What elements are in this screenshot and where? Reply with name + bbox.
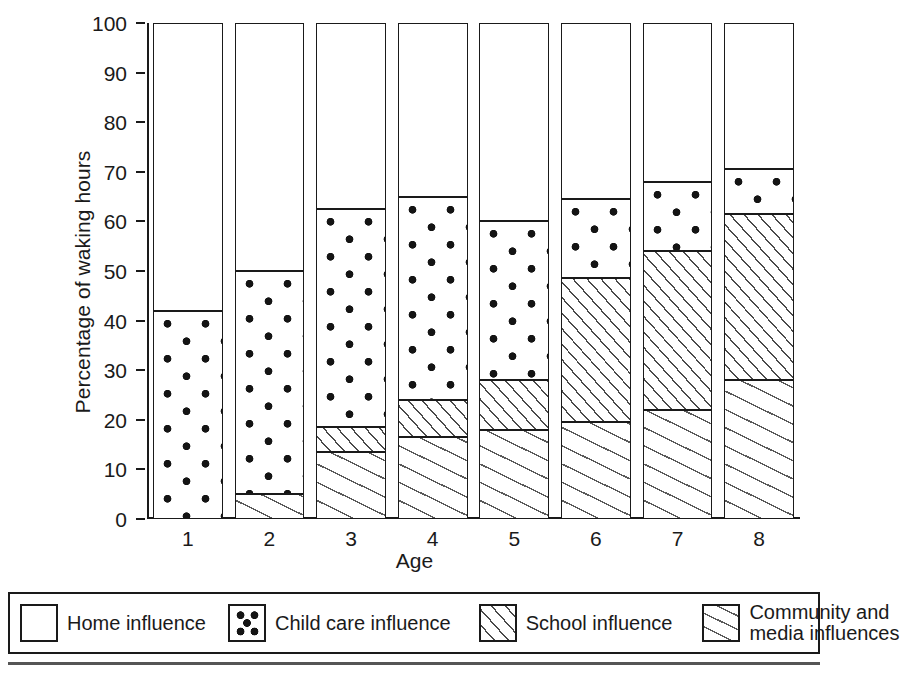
x-tick-label: 8 bbox=[753, 527, 765, 551]
bar-segment-community bbox=[316, 452, 386, 519]
y-tick-mark bbox=[136, 270, 145, 272]
y-tick-label: 20 bbox=[75, 409, 127, 430]
bar-stack bbox=[153, 23, 223, 519]
y-tick-mark bbox=[136, 468, 145, 470]
y-tick-label: 60 bbox=[75, 211, 127, 232]
legend-swatch-home-icon bbox=[20, 604, 58, 642]
bar-stack bbox=[724, 23, 794, 519]
legend-entry-childcare[interactable]: Child care influence bbox=[228, 604, 451, 642]
bar-segment-school bbox=[643, 251, 713, 410]
bar-segment-community bbox=[398, 437, 468, 519]
bar-segment-home bbox=[561, 23, 631, 199]
y-tick-label: 50 bbox=[75, 261, 127, 282]
y-tick-label: 10 bbox=[75, 459, 127, 480]
y-tick-label: 70 bbox=[75, 161, 127, 182]
bar-stack bbox=[316, 23, 386, 519]
bar-segment-childcare bbox=[316, 209, 386, 427]
y-tick-label: 30 bbox=[75, 360, 127, 381]
bar-segment-childcare bbox=[643, 182, 713, 251]
legend-entry-home[interactable]: Home influence bbox=[20, 604, 206, 642]
legend-swatch-community-icon bbox=[702, 604, 740, 642]
x-tick-label: 2 bbox=[264, 527, 276, 551]
bar-segment-childcare bbox=[398, 197, 468, 400]
bar-stack bbox=[398, 23, 468, 519]
y-tick-label: 80 bbox=[75, 112, 127, 133]
y-tick-label: 100 bbox=[75, 13, 127, 34]
x-tick-label: 5 bbox=[508, 527, 520, 551]
x-tick-label: 7 bbox=[672, 527, 684, 551]
bar-segment-community bbox=[479, 430, 549, 519]
y-tick-mark bbox=[136, 121, 145, 123]
bar-segment-home bbox=[479, 23, 549, 221]
x-tick-label: 1 bbox=[182, 527, 194, 551]
legend-label: Home influence bbox=[67, 613, 206, 634]
bar-segment-school bbox=[561, 278, 631, 422]
bar-segment-school bbox=[316, 427, 386, 452]
y-tick-mark bbox=[136, 320, 145, 322]
bar-segment-childcare bbox=[479, 221, 549, 380]
bar-segment-school bbox=[479, 380, 549, 430]
bar-segment-home bbox=[316, 23, 386, 209]
y-axis-line bbox=[147, 23, 149, 519]
bar-segment-home bbox=[153, 23, 223, 311]
bar-stack bbox=[479, 23, 549, 519]
bar-segment-community bbox=[561, 422, 631, 519]
bar-segment-home bbox=[643, 23, 713, 182]
plot-area bbox=[147, 23, 800, 519]
y-tick-mark bbox=[136, 22, 145, 24]
y-tick-label: 0 bbox=[75, 509, 127, 530]
legend-label: Community and media influences bbox=[749, 602, 899, 644]
x-tick-label: 4 bbox=[427, 527, 439, 551]
legend-swatch-childcare-icon bbox=[228, 604, 266, 642]
legend-label: Child care influence bbox=[275, 613, 451, 634]
bar-segment-school bbox=[724, 214, 794, 380]
x-tick-label: 3 bbox=[345, 527, 357, 551]
bar-stack bbox=[643, 23, 713, 519]
x-tick-label: 6 bbox=[590, 527, 602, 551]
bar-segment-home bbox=[724, 23, 794, 169]
legend-label: School influence bbox=[526, 613, 673, 634]
bar-segment-childcare bbox=[235, 271, 305, 494]
bar-segment-school bbox=[398, 400, 468, 437]
y-tick-mark bbox=[136, 171, 145, 173]
y-tick-label: 90 bbox=[75, 62, 127, 83]
bar-stack bbox=[561, 23, 631, 519]
bar-segment-childcare bbox=[724, 169, 794, 214]
bar-segment-home bbox=[398, 23, 468, 197]
bar-stack bbox=[235, 23, 305, 519]
bar-segment-home bbox=[235, 23, 305, 271]
bar-segment-community bbox=[643, 410, 713, 519]
legend-entry-school[interactable]: School influence bbox=[479, 604, 673, 642]
bar-segment-community bbox=[724, 380, 794, 519]
y-tick-mark bbox=[136, 518, 145, 520]
chart-legend: Home influenceChild care influenceSchool… bbox=[8, 592, 820, 654]
legend-entry-community[interactable]: Community and media influences bbox=[702, 602, 899, 644]
page-rule bbox=[8, 662, 820, 665]
y-tick-label: 40 bbox=[75, 310, 127, 331]
y-tick-mark bbox=[136, 72, 145, 74]
y-tick-mark bbox=[136, 419, 145, 421]
bar-segment-community bbox=[235, 494, 305, 519]
x-axis-title: Age bbox=[0, 549, 829, 573]
bar-segment-childcare bbox=[153, 311, 223, 519]
bar-segment-childcare bbox=[561, 199, 631, 278]
y-tick-mark bbox=[136, 220, 145, 222]
legend-swatch-school-icon bbox=[479, 604, 517, 642]
y-tick-mark bbox=[136, 369, 145, 371]
